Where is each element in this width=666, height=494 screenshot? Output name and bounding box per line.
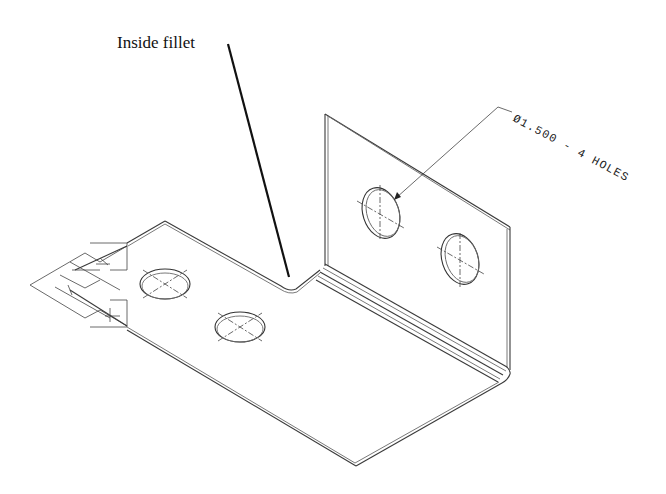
drawing-canvas: [0, 0, 666, 494]
section-arrows: [30, 243, 127, 327]
base-hole-1: [140, 269, 190, 299]
fillet-leader: [228, 44, 289, 277]
base-hole-2: [215, 312, 265, 342]
flange-hole-2: [435, 229, 485, 290]
bend-lines: [316, 264, 510, 383]
vertical-flange: [325, 114, 510, 370]
inside-fillet-label: Inside fillet: [117, 33, 195, 53]
hole-callout-leader: [394, 107, 512, 200]
flange-hole-1: [356, 183, 406, 244]
